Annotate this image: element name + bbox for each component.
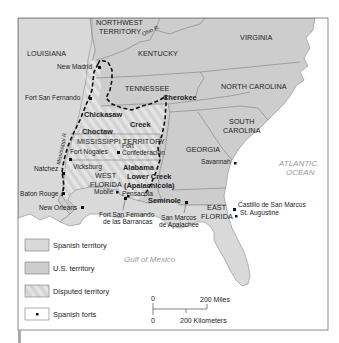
label-apalachicola: (Apalachicola): [124, 181, 175, 190]
label-atlantic: ATLANTIC: [278, 159, 317, 168]
place-natchez: Natchez: [34, 165, 58, 172]
label-east-florida: EAST: [207, 203, 227, 212]
place-mobile: Mobile: [94, 188, 114, 195]
place-pensacola: Pensacola: [122, 190, 153, 197]
label-northwest-territory-2: TERRITORY: [99, 27, 141, 36]
legend-swatch-disputed: [25, 285, 49, 297]
label-northwest-territory: NORTHWEST: [96, 18, 144, 27]
label-choctaw: Choctaw: [82, 127, 113, 136]
label-east-florida-2: FLORIDA: [201, 212, 233, 221]
label-chickasaw: Chickasaw: [84, 110, 122, 119]
legend-label-us: U.S. territory: [53, 264, 95, 273]
place-castillo: Castillo de San Marcos: [238, 201, 307, 208]
place-fort-barrancas-2: de las Barrancas: [103, 218, 153, 225]
label-cherokee: Cherokee: [163, 93, 197, 102]
place-st-augustine: St. Augustine: [240, 209, 279, 217]
place-savannah: Savannah: [201, 158, 231, 165]
label-creek: Creek: [130, 120, 151, 129]
legend-swatch-spanish: [25, 239, 49, 251]
label-georgia: GEORGIA: [186, 145, 220, 154]
place-new-orleans: New Orleans: [39, 204, 78, 211]
legend-label-disputed: Disputed territory: [53, 287, 110, 296]
place-fort-confederacion: Fort: [122, 142, 134, 149]
page-edge-bar: [18, 330, 21, 343]
place-san-marcos: San Marcos: [161, 214, 197, 221]
place-fort-confederacion-2: Confederación: [122, 149, 165, 156]
place-fort-nogales: Fort Nogales: [70, 148, 108, 156]
label-seminole: Seminole: [148, 196, 181, 205]
legend-swatch-us: [25, 262, 49, 274]
label-louisiana: LOUISIANA: [27, 49, 66, 58]
label-gulf-of-mexico: Gulf of Mexico: [124, 255, 176, 264]
label-alabama: Alabama: [123, 163, 155, 172]
label-west-florida: WEST: [95, 171, 117, 180]
label-virginia: VIRGINIA: [240, 33, 272, 42]
scale-miles: 200 Miles: [200, 296, 230, 303]
scale-zero-miles: 0: [151, 295, 155, 302]
place-baton-rouge: Baton Rouge: [20, 190, 59, 198]
fort-icon: [36, 313, 39, 316]
legend-label-fort: Spanish forts: [53, 310, 96, 319]
legend-label-spanish: Spanish territory: [53, 241, 107, 250]
place-fort-san-fernando: Fort San Fernando: [25, 94, 81, 101]
label-kentucky: KENTUCKY: [138, 49, 178, 58]
label-tennessee: TENNESSEE: [125, 84, 170, 93]
scale-kilometers: 200 Kilometers: [180, 317, 227, 324]
label-atlantic-2: OCEAN: [286, 168, 315, 177]
place-san-marcos-2: de Apalachee: [159, 221, 199, 229]
label-north-carolina: NORTH CAROLINA: [221, 82, 287, 91]
place-new-madrid: New Madrid: [57, 63, 93, 70]
label-south-carolina-2: CAROLINA: [223, 126, 261, 135]
scale-zero-km: 0: [151, 317, 155, 324]
place-vicksburg: Vicksburg: [73, 163, 102, 171]
map: LOUISIANA NORTHWEST TERRITORY KENTUCKY V…: [0, 0, 339, 343]
label-south-carolina: SOUTH: [229, 117, 255, 126]
label-lower-creek: Lower Creek: [127, 172, 172, 181]
place-fort-barrancas: Fort San Fernando: [99, 211, 155, 218]
